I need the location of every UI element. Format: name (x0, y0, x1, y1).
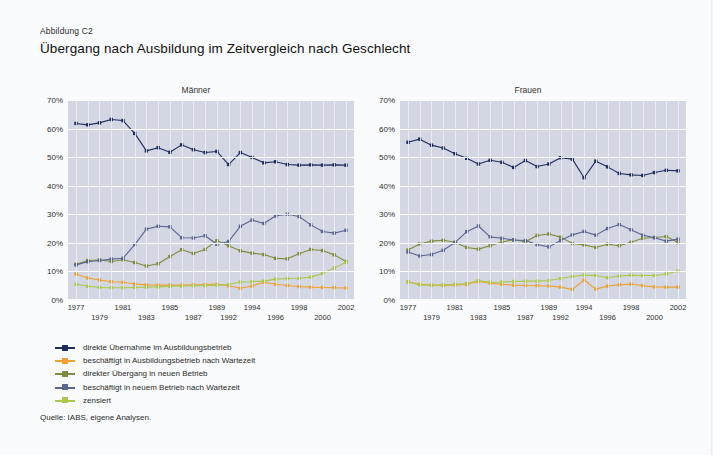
x-tick-label: 1977 (68, 303, 85, 312)
x-gridline (467, 100, 468, 300)
y-axis-maenner: 0%10%20%30%40%50%60%70% (36, 100, 66, 300)
y-tick-label: 40% (47, 181, 63, 190)
x-tick-label: 1994 (576, 303, 593, 312)
legend-swatch-icon (55, 373, 75, 375)
plot-area-frauen (400, 100, 686, 300)
legend-label: beschäftigt in neuem Betrieb nach Wartez… (83, 381, 240, 394)
legend-marker-icon (62, 345, 68, 351)
y-tick-label: 30% (47, 210, 63, 219)
x-gridline (217, 100, 218, 300)
x-gridline (431, 100, 432, 300)
x-gridline (514, 100, 515, 300)
x-tick-label: 2002 (670, 303, 687, 312)
x-gridline (490, 100, 491, 300)
x-gridline (537, 100, 538, 300)
series-line (76, 241, 346, 266)
x-gridline (619, 100, 620, 300)
x-gridline (111, 100, 112, 300)
x-tick-label: 1992 (552, 313, 569, 322)
plot-area-maenner (68, 100, 354, 300)
x-tick-label: 2002 (338, 303, 355, 312)
x-gridline (631, 100, 632, 300)
figure-title: Übergang nach Ausbildung im Zeitvergleic… (40, 41, 410, 56)
y-tick-label: 70% (379, 96, 395, 105)
x-gridline (655, 100, 656, 300)
x-axis-frauen: 1977198119851989199419982002197919831987… (400, 300, 686, 326)
figure-label: Abbildung C2 (40, 26, 93, 36)
x-gridline (323, 100, 324, 300)
x-tick-label: 1983 (470, 313, 487, 322)
x-tick-label: 1977 (400, 303, 417, 312)
legend-swatch-icon (55, 360, 75, 362)
x-gridline (346, 100, 347, 300)
legend-swatch-icon (55, 387, 75, 389)
chart-title-frauen: Frauen (368, 85, 688, 95)
legend-swatch-icon (55, 400, 75, 402)
x-tick-label: 1998 (623, 303, 640, 312)
y-tick-label: 60% (379, 124, 395, 133)
x-gridline (276, 100, 277, 300)
x-gridline (561, 100, 562, 300)
x-gridline (666, 100, 667, 300)
x-gridline (311, 100, 312, 300)
x-gridline (99, 100, 100, 300)
x-gridline (240, 100, 241, 300)
x-axis-maenner: 1977198119851989199419982002197919831987… (68, 300, 354, 326)
legend-marker-icon (62, 358, 68, 364)
legend-marker-icon (62, 371, 68, 377)
x-gridline (584, 100, 585, 300)
legend-swatch-icon (55, 347, 75, 349)
x-gridline (182, 100, 183, 300)
y-tick-label: 20% (379, 238, 395, 247)
x-tick-label: 1994 (244, 303, 261, 312)
x-tick-label: 2000 (314, 313, 331, 322)
x-tick-label: 1998 (291, 303, 308, 312)
x-gridline (158, 100, 159, 300)
x-gridline (205, 100, 206, 300)
legend-label: zensiert (83, 394, 111, 407)
x-gridline (502, 100, 503, 300)
x-gridline (76, 100, 77, 300)
x-tick-label: 1992 (220, 313, 237, 322)
y-tick-label: 10% (379, 267, 395, 276)
x-gridline (455, 100, 456, 300)
x-tick-label: 1985 (494, 303, 511, 312)
y-tick-label: 50% (379, 153, 395, 162)
x-gridline (643, 100, 644, 300)
figure-page: Abbildung C2 Übergang nach Ausbildung im… (0, 0, 713, 455)
x-tick-label: 2000 (646, 313, 663, 322)
y-axis-frauen: 0%10%20%30%40%50%60%70% (368, 100, 398, 300)
x-gridline (608, 100, 609, 300)
x-gridline (193, 100, 194, 300)
x-tick-label: 1979 (91, 313, 108, 322)
y-tick-label: 10% (47, 267, 63, 276)
y-tick-label: 70% (47, 96, 63, 105)
x-tick-label: 1985 (162, 303, 179, 312)
x-gridline (420, 100, 421, 300)
x-tick-label: 1989 (209, 303, 226, 312)
chart-title-maenner: Männer (36, 85, 356, 95)
x-gridline (572, 100, 573, 300)
x-gridline (252, 100, 253, 300)
x-gridline (334, 100, 335, 300)
series-line (408, 139, 678, 178)
series-line (76, 274, 346, 288)
x-gridline (525, 100, 526, 300)
x-tick-label: 1979 (423, 313, 440, 322)
x-tick-label: 1987 (185, 313, 202, 322)
x-gridline (264, 100, 265, 300)
x-gridline (170, 100, 171, 300)
series-line (408, 271, 678, 285)
x-tick-label: 1981 (115, 303, 132, 312)
series-line (76, 214, 346, 265)
x-gridline (408, 100, 409, 300)
y-tick-label: 30% (379, 210, 395, 219)
y-tick-label: 50% (47, 153, 63, 162)
series-line (76, 119, 346, 165)
x-gridline (229, 100, 230, 300)
legend-label: direkte Übernahme im Ausbildungsbetrieb (83, 341, 232, 354)
y-tick-label: 60% (47, 124, 63, 133)
legend-marker-icon (62, 384, 68, 390)
legend-label: beschäftigt in Ausbildungsbetrieb nach W… (83, 354, 255, 367)
x-tick-label: 1981 (447, 303, 464, 312)
